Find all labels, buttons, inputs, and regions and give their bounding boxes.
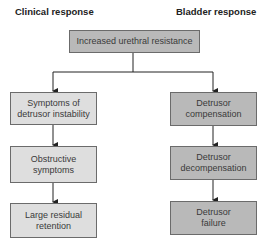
detrusor-compensation-box: Detrusor compensation [170,92,257,126]
large-residual-retention-box: Large residual retention [10,203,97,238]
detrusor-decompensation-box: Detrusor decompensation [170,146,257,180]
box-label: Detrusor failure [171,207,256,229]
obstructive-symptoms-box: Obstructive symptoms [10,146,97,183]
box-label: Large residual retention [11,210,96,232]
box-label: Detrusor decompensation [171,152,256,174]
box-label: Detrusor compensation [171,98,256,120]
increased-urethral-resistance-box: Increased urethral resistance [69,30,200,53]
box-label: Obstructive symptoms [11,154,96,176]
detrusor-failure-box: Detrusor failure [170,201,257,235]
box-label: Increased urethral resistance [76,36,192,47]
box-label: Symptoms of detrusor instability [11,98,96,120]
detrusor-instability-symptoms-box: Symptoms of detrusor instability [10,92,97,125]
